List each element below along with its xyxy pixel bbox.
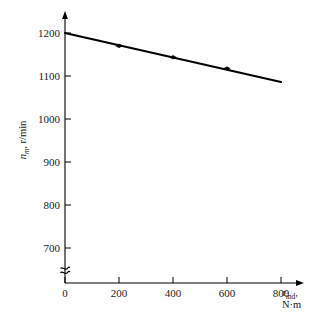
y-tick-label-1200: 1200 (38, 27, 61, 39)
svg-text:nm, r/min: nm, r/min (17, 120, 31, 159)
arrow-right-icon (296, 280, 304, 286)
x-tick-label-600: 600 (219, 287, 236, 299)
x-axis-ticks (65, 277, 281, 283)
y-axis-title-unit: , r/min (17, 120, 28, 149)
x-tick-label-400: 400 (165, 287, 182, 299)
line-chart: 1200 1100 1000 900 800 700 0 20 (0, 0, 326, 323)
y-axis-title: nm, r/min (17, 120, 31, 159)
arrow-up-icon (62, 11, 68, 19)
y-tick-label-900: 900 (44, 156, 61, 168)
y-tick-label-700: 700 (44, 242, 61, 254)
x-axis-title-unit: N·m (282, 299, 301, 310)
data-series (65, 33, 281, 82)
x-axis (65, 280, 304, 286)
x-axis-title: τind, N·m (282, 287, 301, 310)
x-tick-label-200: 200 (111, 287, 128, 299)
y-axis (62, 11, 68, 283)
y-tick-label-800: 800 (44, 199, 61, 211)
y-axis-ticks (65, 33, 71, 248)
chart-figure: 1200 1100 1000 900 800 700 0 20 (0, 0, 326, 323)
x-tick-label-0: 0 (62, 287, 68, 299)
x-axis-tick-labels: 0 200 400 600 800 (62, 287, 290, 299)
y-axis-tick-labels: 1200 1100 1000 900 800 700 (38, 27, 61, 254)
x-axis-title-comma: , (295, 287, 298, 298)
y-tick-label-1000: 1000 (38, 113, 61, 125)
y-tick-label-1100: 1100 (38, 70, 60, 82)
